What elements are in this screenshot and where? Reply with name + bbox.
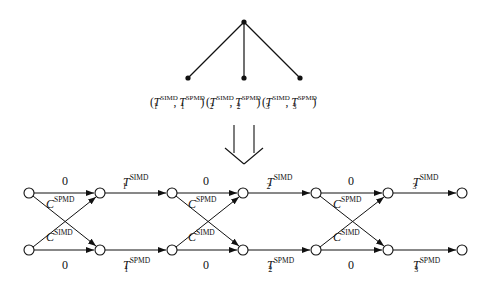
- edge-label-c-simd: CSIMD: [333, 231, 360, 243]
- edge-label-c-simd: CSIMD: [188, 231, 215, 243]
- tree-leaf-node: [185, 75, 190, 80]
- edge-label-t2-simd: TSIMD2: [267, 176, 270, 188]
- diagram-canvas: [0, 0, 490, 282]
- tree-leaf-node: [297, 75, 302, 80]
- tree-leaf-node: [241, 75, 246, 80]
- tuple-label-1: (TSIMD1, TSPMD1): [150, 96, 204, 108]
- edge-label-c-spmd: CSPMD: [46, 198, 74, 210]
- edge-label-zero: 0: [62, 259, 68, 271]
- edge-label-t2-spmd: TSPMD2: [267, 259, 272, 271]
- edge-label-c-spmd: CSPMD: [333, 198, 361, 210]
- edge-label-c-simd: CSIMD: [46, 231, 73, 243]
- edge-label-t1-simd: TSIMD1: [123, 176, 126, 188]
- tree-root-node: [241, 19, 246, 24]
- tuple-label-3: (TSIMD3, TSPMD3): [262, 96, 316, 108]
- tree: [188, 22, 300, 78]
- edge-label-t1-spmd: TSPMD1: [123, 259, 128, 271]
- tuple-label-2: (TSIMD2, TSPMD2): [206, 96, 260, 108]
- edge-label-zero: 0: [62, 175, 68, 187]
- edge-label-zero: 0: [348, 175, 354, 187]
- edge-label-zero: 0: [203, 259, 209, 271]
- graph-edges: [33, 193, 456, 250]
- graph-nodes: [24, 188, 467, 255]
- edge-label-zero: 0: [203, 175, 209, 187]
- transform-arrow-icon: [225, 125, 263, 164]
- edge-label-zero: 0: [348, 259, 354, 271]
- edge-label-t3-simd: TSIMD3: [413, 176, 416, 188]
- edge-label-c-spmd: CSPMD: [188, 198, 216, 210]
- edge-label-t3-spmd: TSPMD3: [413, 259, 418, 271]
